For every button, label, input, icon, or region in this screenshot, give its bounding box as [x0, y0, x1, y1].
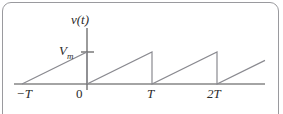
x-tick-label-zero: 0 [76, 87, 83, 100]
waveform-plot [0, 0, 283, 114]
amplitude-subscript: m [67, 51, 74, 61]
amplitude-symbol: V [59, 43, 67, 58]
x-tick-label-neg-t: −T [16, 87, 32, 100]
x-tick-label-2t: 2T [207, 87, 221, 100]
x-tick-label-t: T [147, 87, 154, 100]
y-axis-label: v(t) [71, 13, 89, 26]
figure-container: v(t) Vm −T 0 T 2T [0, 0, 283, 114]
amplitude-label: Vm [59, 44, 73, 61]
